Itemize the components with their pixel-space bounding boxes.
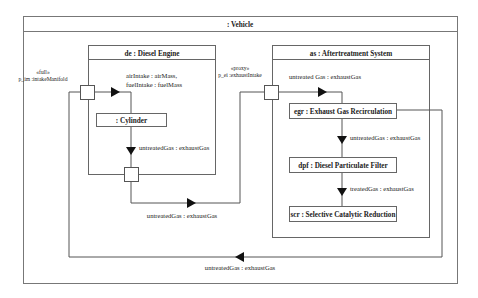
engine-exhaust-port[interactable] xyxy=(125,168,139,182)
engine-exhaust-label: untreatedGas : exhaustGas xyxy=(147,212,218,219)
vehicle-ibd-diagram: : Vehicle de : Diesel Engine as : Aftert… xyxy=(0,0,478,298)
egr-out-label: untreatedGas : exhaustGas xyxy=(350,134,421,141)
diesel-engine-title: de : Diesel Engine xyxy=(125,50,180,58)
scr-title: scr : Selective Catalytic Reduction xyxy=(291,211,396,219)
as-intake-label: untreated Gas : exhaustGas xyxy=(289,73,361,80)
dpf-part[interactable]: dpf : Diesel Particulate Filter xyxy=(290,158,397,173)
intake-port-stereotype: «full» xyxy=(36,69,50,75)
cylinder-part[interactable]: : Cylinder xyxy=(97,114,167,127)
diesel-engine-block[interactable]: de : Diesel Engine xyxy=(89,46,216,175)
egr-title: egr : Exhaust Gas Recirculation xyxy=(294,108,392,116)
fuel-intake-label: fuelIntake : fuelMass xyxy=(126,81,182,88)
air-intake-label: airIntake : airMass, xyxy=(126,72,177,79)
exhaust-intake-port[interactable] xyxy=(265,86,279,100)
aftertreatment-title: as : Aftertreatment System xyxy=(310,50,392,58)
cylinder-title: : Cylinder xyxy=(116,117,148,125)
scr-part[interactable]: scr : Selective Catalytic Reduction xyxy=(290,207,397,222)
cylinder-exhaust-label: untreatedGas : exhaustGas xyxy=(139,144,210,151)
vehicle-title: : Vehicle xyxy=(227,21,253,29)
egr-part[interactable]: egr : Exhaust Gas Recirculation xyxy=(290,104,397,119)
recirculation-label: untreatedGas : exhaustGas xyxy=(205,264,276,271)
intake-port-label: p_im :intakeManifold xyxy=(19,76,68,82)
exhaust-port-label: p_ei :exhaustIntake xyxy=(218,72,262,78)
dpf-out-label: treatedGas : exhaustGas xyxy=(350,185,414,192)
exhaust-port-stereotype: «proxy» xyxy=(231,65,250,71)
intake-manifold-port[interactable] xyxy=(81,86,95,100)
dpf-title: dpf : Diesel Particulate Filter xyxy=(298,162,388,170)
